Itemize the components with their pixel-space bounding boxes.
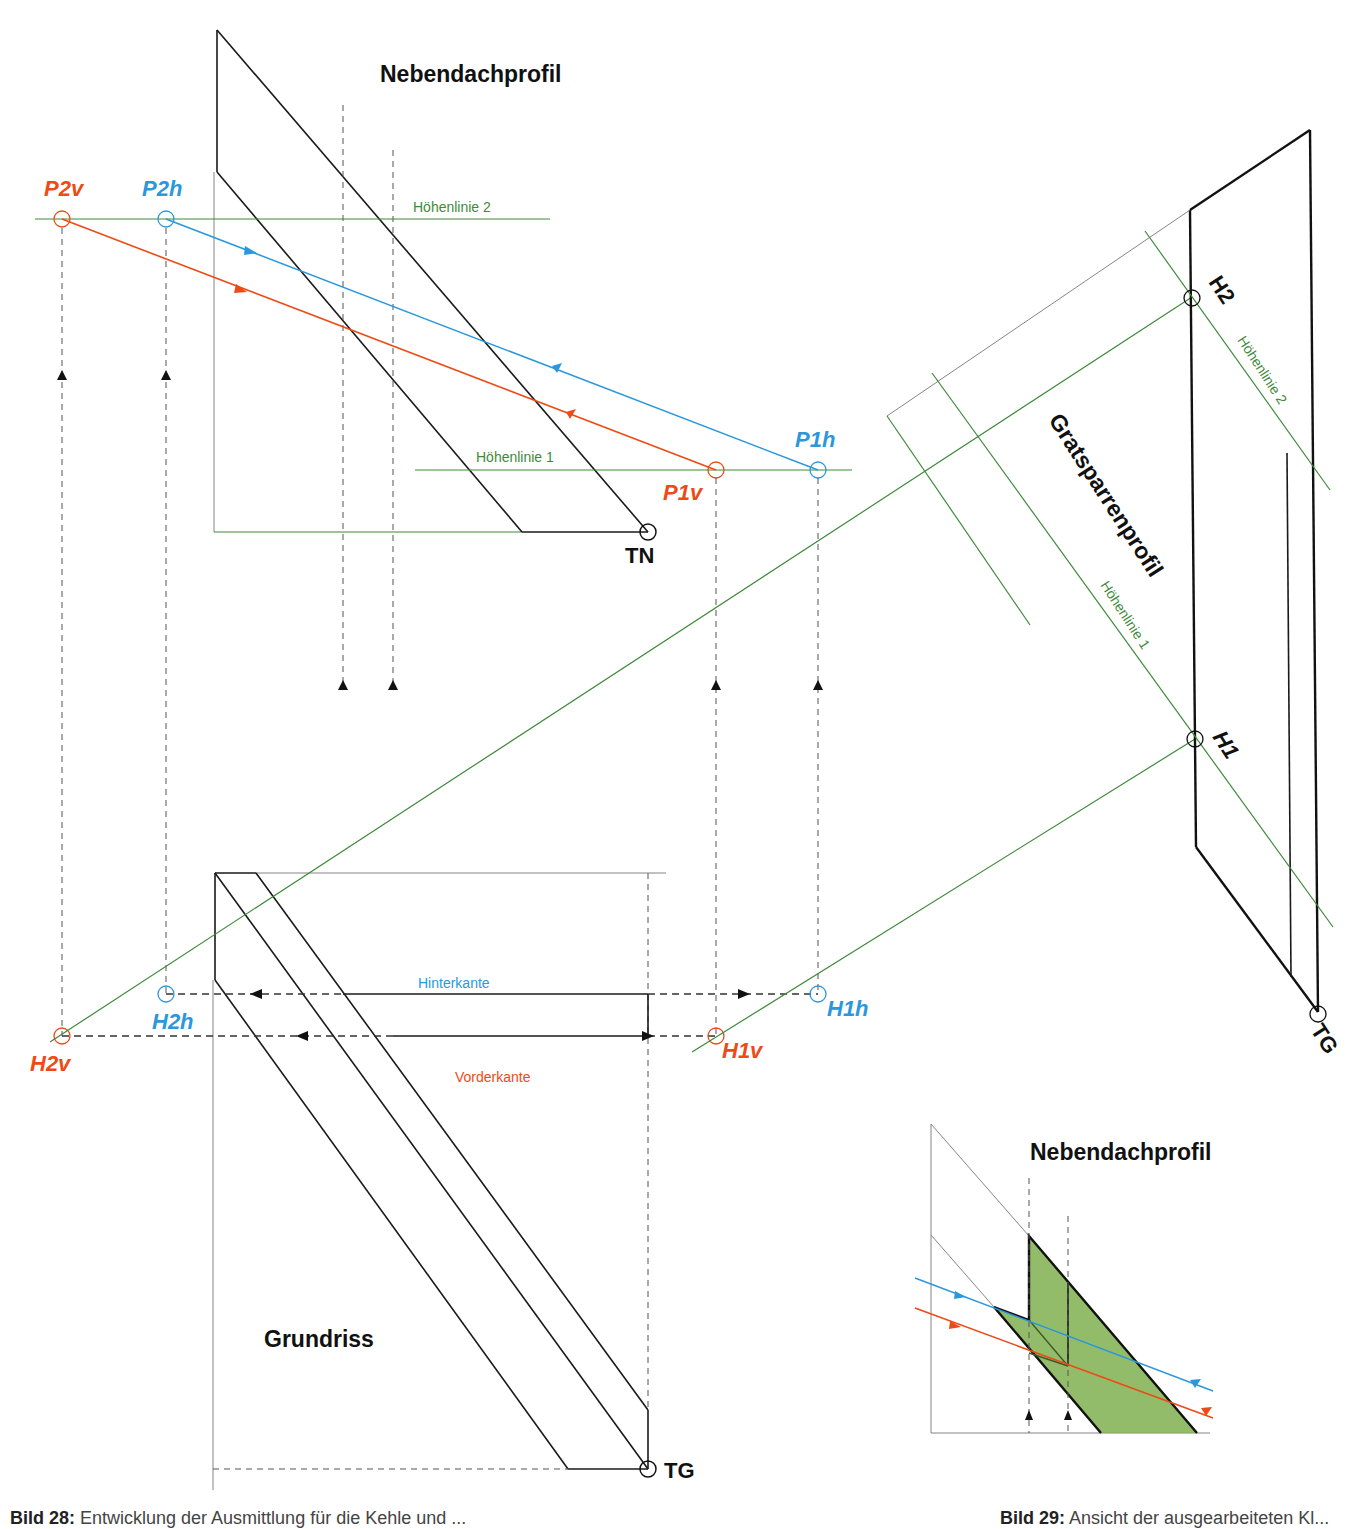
- nebendachprofil-drawing: [214, 30, 656, 690]
- caption-left-prefix: Bild 28:: [10, 1508, 75, 1528]
- label-p1h: P1h: [795, 427, 835, 452]
- diagonal-hoehe-1: [692, 739, 1195, 1052]
- label-h2h: H2h: [152, 1009, 194, 1034]
- label-tn: TN: [625, 543, 654, 568]
- label-h2: H2: [1204, 271, 1240, 308]
- inset-nebendachprofil: [915, 1124, 1213, 1433]
- label-vorderkante: Vorderkante: [455, 1069, 531, 1085]
- caption-right-text: Ansicht der ausgearbeiteten Kl...: [1069, 1508, 1329, 1528]
- label-hoehenlinie-2: Höhenlinie 2: [413, 199, 491, 215]
- blue-projection-line: [166, 219, 818, 470]
- label-hoehenlinie-1: Höhenlinie 1: [476, 449, 554, 465]
- title-nebendachprofil: Nebendachprofil: [380, 61, 561, 87]
- title-nebendachprofil-inset: Nebendachprofil: [1030, 1139, 1211, 1165]
- caption-right-prefix: Bild 29:: [1000, 1508, 1065, 1528]
- label-tg-right: TG: [1306, 1019, 1344, 1058]
- caption-left-text: Entwicklung der Ausmittlung für die Kehl…: [80, 1508, 466, 1528]
- title-gratsparrenprofil: Gratsparrenprofil: [1044, 409, 1169, 582]
- label-h2v: H2v: [30, 1051, 72, 1076]
- label-h1: H1: [1208, 726, 1244, 763]
- caption-left: Bild 28: Entwicklung der Ausmittlung für…: [10, 1508, 466, 1529]
- red-projection-line: [62, 219, 716, 470]
- title-grundriss: Grundriss: [264, 1326, 374, 1352]
- label-hinterkante: Hinterkante: [418, 975, 490, 991]
- caption-right: Bild 29: Ansicht der ausgearbeiteten Kl.…: [1000, 1508, 1329, 1529]
- label-h1v: H1v: [722, 1038, 764, 1063]
- label-p1v: P1v: [663, 480, 704, 505]
- label-h1h: H1h: [827, 996, 869, 1021]
- label-p2v: P2v: [44, 176, 85, 201]
- gratsparrenprofil-drawing: [887, 130, 1333, 1022]
- diagonal-hoehe-2: [50, 297, 1192, 1042]
- label-tg-bottom: TG: [664, 1458, 695, 1483]
- grundriss-drawing: [62, 873, 818, 1490]
- label-p2h: P2h: [142, 176, 182, 201]
